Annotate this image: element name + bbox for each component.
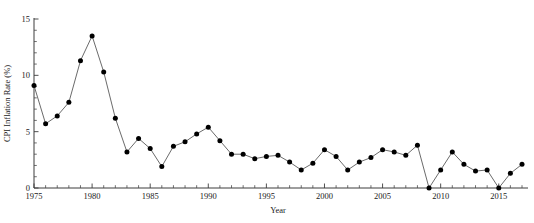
data-point	[159, 164, 164, 169]
x-tick-label: 1985	[142, 191, 159, 201]
x-axis-ticks	[34, 184, 522, 189]
x-axis-tick-labels: 197519801985199019952000200520102015	[26, 191, 508, 201]
data-point	[461, 162, 466, 167]
data-point	[241, 152, 246, 157]
data-point	[299, 167, 304, 172]
chart-container: 051015 197519801985199019952000200520102…	[0, 0, 534, 223]
data-point	[124, 149, 129, 154]
data-point	[438, 167, 443, 172]
data-point	[357, 160, 362, 165]
data-point	[264, 154, 269, 159]
data-point	[496, 186, 501, 191]
data-point	[101, 69, 106, 74]
data-point	[78, 58, 83, 63]
data-point	[136, 136, 141, 141]
x-tick-label: 2005	[374, 191, 391, 201]
data-point	[206, 125, 211, 130]
data-point	[345, 167, 350, 172]
series-markers-cpi	[32, 33, 525, 190]
data-point	[415, 143, 420, 148]
data-point	[276, 153, 281, 158]
data-point	[32, 83, 37, 88]
x-tick-label: 1980	[84, 191, 101, 201]
data-point	[194, 131, 199, 136]
data-point	[485, 167, 490, 172]
data-point	[368, 155, 373, 160]
data-point	[148, 146, 153, 151]
y-axis-title: CPI Inflation Rate (%)	[2, 65, 12, 142]
data-point	[334, 154, 339, 159]
data-point	[183, 139, 188, 144]
y-tick-label: 15	[22, 14, 31, 24]
data-point	[287, 160, 292, 165]
x-axis-title: Year	[270, 205, 286, 215]
series-group	[32, 33, 525, 190]
x-tick-label: 2015	[490, 191, 507, 201]
data-point	[171, 144, 176, 149]
data-point	[217, 138, 222, 143]
data-point	[90, 33, 95, 38]
data-point	[252, 156, 257, 161]
cpi-inflation-line-chart: 051015 197519801985199019952000200520102…	[0, 0, 534, 223]
x-tick-label: 1975	[26, 191, 43, 201]
data-point	[473, 169, 478, 174]
series-line-cpi	[34, 36, 522, 188]
data-point	[508, 171, 513, 176]
y-axis-group: 051015	[22, 14, 39, 193]
data-point	[427, 186, 432, 191]
data-point	[55, 113, 60, 118]
y-axis-tick-labels: 051015	[22, 14, 31, 193]
data-point	[380, 147, 385, 152]
y-tick-label: 5	[26, 127, 30, 137]
x-axis-group: 197519801985199019952000200520102015	[26, 184, 529, 202]
data-point	[450, 149, 455, 154]
x-tick-label: 1995	[258, 191, 275, 201]
data-point	[229, 152, 234, 157]
y-tick-label: 10	[22, 70, 31, 80]
data-point	[66, 100, 71, 105]
x-tick-label: 2000	[316, 191, 333, 201]
data-point	[403, 153, 408, 158]
x-tick-label: 2010	[432, 191, 449, 201]
data-point	[520, 162, 525, 167]
data-point	[322, 147, 327, 152]
data-point	[43, 121, 48, 126]
y-axis-ticks	[34, 19, 39, 188]
data-point	[310, 161, 315, 166]
data-point	[392, 149, 397, 154]
x-tick-label: 1990	[200, 191, 217, 201]
data-point	[113, 116, 118, 121]
